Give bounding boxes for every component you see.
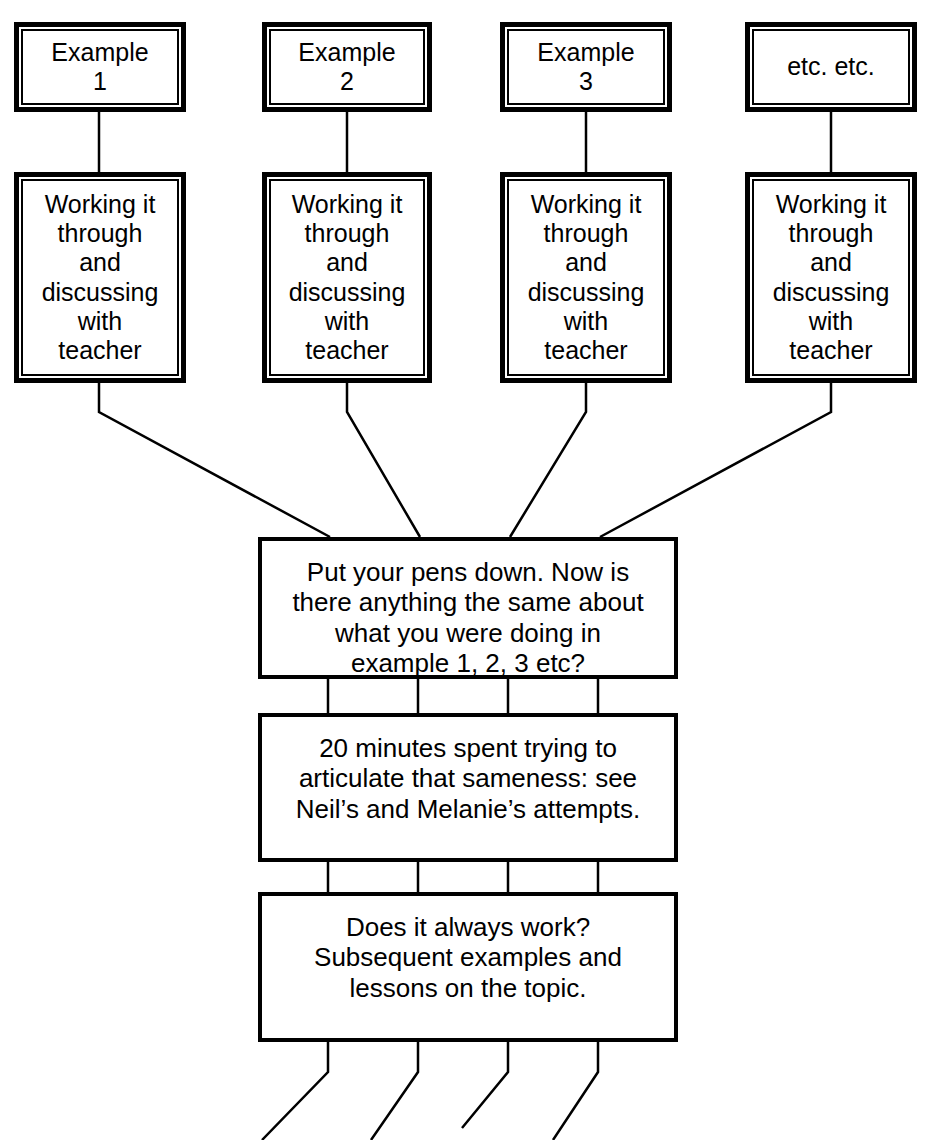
node-working-2-label: Working it through and discussing with t… [289, 190, 406, 366]
connector-working2-question [347, 383, 420, 537]
node-working-1[interactable]: Working it through and discussing with t… [14, 172, 186, 383]
node-working-2-body: Working it through and discussing with t… [269, 179, 425, 376]
node-stage-question-label: Put your pens down. Now is there anythin… [292, 541, 643, 679]
node-example-1-label: Example 1 [51, 38, 148, 97]
node-example-2-label: Example 2 [298, 38, 395, 97]
node-stage-question[interactable]: Put your pens down. Now is there anythin… [258, 537, 678, 679]
node-working-3-body: Working it through and discussing with t… [507, 179, 665, 376]
node-working-3[interactable]: Working it through and discussing with t… [500, 172, 672, 383]
node-example-1[interactable]: Example 1 [14, 22, 186, 112]
node-etc-body: etc. etc. [752, 29, 910, 105]
node-working-2[interactable]: Working it through and discussing with t… [262, 172, 432, 383]
node-example-3-body: Example 3 [507, 29, 665, 105]
node-stage-followup[interactable]: Does it always work? Subsequent examples… [258, 892, 678, 1042]
connector-followup-branch-a [262, 1042, 328, 1140]
connector-working1-question [99, 383, 330, 537]
node-working-1-label: Working it through and discussing with t… [42, 190, 159, 366]
connector-working3-question [510, 383, 586, 537]
node-working-4-body: Working it through and discussing with t… [752, 179, 910, 376]
node-working-3-label: Working it through and discussing with t… [528, 190, 645, 366]
node-stage-articulate[interactable]: 20 minutes spent trying to articulate th… [258, 713, 678, 862]
node-working-4-label: Working it through and discussing with t… [773, 190, 890, 366]
node-example-2[interactable]: Example 2 [262, 22, 432, 112]
node-etc[interactable]: etc. etc. [745, 22, 917, 112]
connector-followup-branch-d [553, 1042, 598, 1140]
node-example-1-body: Example 1 [21, 29, 179, 105]
diagram-canvas: Example 1 Example 2 Example 3 etc. etc. … [0, 0, 934, 1140]
node-example-3[interactable]: Example 3 [500, 22, 672, 112]
node-stage-articulate-label: 20 minutes spent trying to articulate th… [296, 717, 640, 824]
node-example-2-body: Example 2 [269, 29, 425, 105]
node-stage-followup-label: Does it always work? Subsequent examples… [314, 896, 622, 1003]
node-example-3-label: Example 3 [537, 38, 634, 97]
connector-working4-question [600, 383, 831, 537]
node-working-1-body: Working it through and discussing with t… [21, 179, 179, 376]
connector-followup-branch-c [462, 1042, 508, 1128]
node-etc-label: etc. etc. [787, 52, 875, 81]
node-working-4[interactable]: Working it through and discussing with t… [745, 172, 917, 383]
connector-followup-branch-b [371, 1042, 418, 1140]
